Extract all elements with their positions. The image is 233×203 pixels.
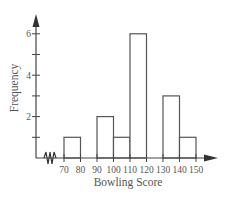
histogram-bar	[130, 34, 147, 158]
histogram-bar	[163, 96, 180, 158]
y-axis-arrow-icon	[33, 14, 40, 27]
histogram-chart: 246 708090100110120130140150 Bowling Sco…	[0, 0, 233, 203]
y-tick-label: 4	[26, 71, 31, 81]
histogram-bar	[97, 117, 114, 158]
y-ticks: 246	[26, 29, 40, 137]
x-tick-label: 110	[123, 165, 137, 175]
y-tick-label: 2	[26, 112, 31, 122]
x-tick-label: 90	[92, 165, 102, 175]
x-tick-label: 130	[156, 165, 171, 175]
histogram-bar	[180, 137, 197, 158]
x-axis-title: Bowling Score	[94, 176, 163, 189]
x-tick-label: 140	[172, 165, 187, 175]
histogram-bars	[64, 34, 196, 158]
x-tick-label: 120	[139, 165, 154, 175]
x-tick-label: 150	[189, 165, 204, 175]
histogram-bar	[114, 137, 131, 158]
histogram-bar	[64, 137, 81, 158]
x-axis-arrow-icon	[204, 155, 218, 162]
y-tick-label: 6	[26, 29, 31, 39]
y-axis-title: Frequency	[8, 63, 21, 112]
x-tick-label: 70	[59, 165, 69, 175]
x-tick-label: 100	[106, 165, 121, 175]
x-tick-label: 80	[76, 165, 86, 175]
